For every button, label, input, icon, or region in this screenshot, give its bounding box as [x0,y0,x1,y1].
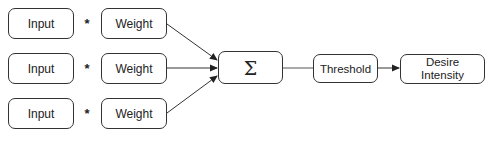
threshold-node: Threshold [313,54,378,83]
input-label: Input [28,17,55,31]
sum-node: Σ [218,51,283,84]
output-label-line1: Desire [426,56,459,69]
weight-label: Weight [115,107,152,121]
sigma-symbol: Σ [244,61,257,75]
multiply-operator: * [82,16,92,31]
weight-label: Weight [115,17,152,31]
output-label-line2: Intensity [421,69,464,82]
input-node-2: Input [8,53,74,84]
multiply-operator: * [82,106,92,121]
weight-label: Weight [115,62,152,76]
multiply-operator: * [82,61,92,76]
input-label: Input [28,62,55,76]
edge-weight3-sum [167,76,217,113]
desire-intensity-node: Desire Intensity [400,54,485,84]
weight-node-2: Weight [101,53,167,84]
weight-node-3: Weight [101,98,167,129]
input-node-1: Input [8,8,74,39]
weight-node-1: Weight [101,8,167,39]
threshold-label: Threshold [320,62,371,76]
edge-weight1-sum [167,24,217,60]
input-label: Input [28,107,55,121]
input-node-3: Input [8,98,74,129]
